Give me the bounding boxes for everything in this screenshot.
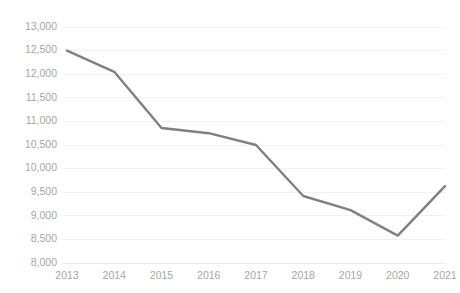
y-axis-tick-label: 12,000 [25, 67, 57, 79]
chart-canvas: 13,00012,50012,00011,50011,00010,50010,0… [0, 0, 460, 293]
x-axis-tick-label: 2020 [386, 269, 410, 281]
x-axis-tick-label: 2014 [103, 269, 127, 281]
y-axis-tick-label: 10,000 [25, 161, 57, 173]
x-axis-tick-label: 2018 [292, 269, 316, 281]
y-axis-tick-label: 11,500 [26, 91, 57, 103]
x-axis-tick-label: 2021 [433, 269, 457, 281]
x-axis-tick-label: 2016 [197, 269, 221, 281]
y-axis-tick-labels: 13,00012,50012,00011,50011,00010,50010,0… [25, 20, 57, 268]
x-axis-tick-labels: 201320142015201620172018201920202021 [55, 269, 457, 281]
y-axis-tick-label: 11,000 [26, 114, 57, 126]
x-axis-tick-label: 2017 [244, 269, 268, 281]
y-axis-tick-label: 12,500 [25, 43, 57, 55]
x-axis-tick-label: 2013 [55, 269, 79, 281]
x-axis-tick-label: 2015 [150, 269, 174, 281]
y-axis-tick-label: 10,500 [25, 138, 57, 150]
x-axis-tick-label: 2019 [339, 269, 363, 281]
data-series-line [67, 51, 445, 236]
y-axis-tick-label: 9,500 [31, 185, 57, 197]
line-chart: 13,00012,50012,00011,50011,00010,50010,0… [0, 0, 460, 293]
y-axis-tick-label: 8,000 [31, 256, 57, 268]
y-axis-tick-label: 9,000 [31, 209, 57, 221]
y-axis-tick-label: 13,000 [25, 20, 57, 32]
y-axis-tick-label: 8,500 [31, 232, 57, 244]
chart-screenshot: 13,00012,50012,00011,50011,00010,50010,0… [0, 0, 460, 293]
